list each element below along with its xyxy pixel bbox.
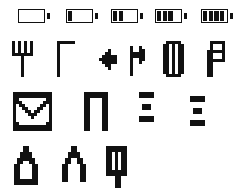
- beta-letter-glyph: [207, 41, 225, 80]
- battery-full: [201, 9, 233, 25]
- battery-terminal: [95, 13, 99, 19]
- battery-segment: [113, 11, 117, 21]
- battery-fill: [203, 11, 224, 21]
- battery-fill: [113, 11, 123, 21]
- antenna-signal-glyph: [106, 146, 127, 191]
- right-arrow-marker-glyph: [130, 46, 145, 82]
- padlock-open-icon: [62, 146, 86, 185]
- envelope-mail-icon: [13, 92, 52, 131]
- battery-fill: [157, 11, 173, 21]
- corner-gamma-glyph: [57, 41, 75, 77]
- battery-segment: [168, 11, 172, 21]
- battery-terminal: [184, 13, 188, 19]
- battery-three-quarter: [155, 9, 187, 25]
- menu-lines-glyph-narrow: [139, 92, 154, 125]
- arch-gate-glyph: [84, 92, 108, 131]
- menu-lines-glyph-wide: [190, 96, 205, 129]
- battery-segment: [203, 11, 207, 21]
- battery-terminal: [140, 13, 144, 19]
- glyph-row-2: [0, 41, 245, 82]
- battery-segment: [163, 11, 167, 21]
- hollow-capsule-glyph: [163, 41, 184, 80]
- battery-one-quarter: [66, 9, 98, 25]
- battery-segment: [68, 11, 72, 21]
- battery-terminal: [47, 13, 51, 19]
- battery-fill: [68, 11, 72, 21]
- battery-segment: [119, 11, 123, 21]
- pixel-icon-sheet: [0, 0, 245, 193]
- battery-segment: [157, 11, 161, 21]
- battery-terminal: [230, 13, 234, 19]
- trident-psi-glyph: [12, 41, 33, 80]
- glyph-row-3: [0, 92, 245, 131]
- left-arrow-marker-glyph: [99, 49, 117, 73]
- battery-segment: [214, 11, 218, 21]
- padlock-closed-icon: [14, 146, 38, 185]
- battery-body: [18, 9, 45, 23]
- battery-half: [111, 9, 143, 25]
- battery-segment: [220, 11, 224, 21]
- battery-segment: [209, 11, 213, 21]
- battery-empty: [18, 9, 50, 25]
- battery-indicator-row: [0, 0, 245, 38]
- glyph-row-4: [0, 146, 245, 191]
